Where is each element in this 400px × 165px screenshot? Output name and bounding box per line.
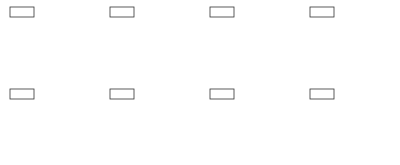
time-label-box: t = 3 4.1 3.5 3.6 2.1 0.2 0 6.9 5.4 <box>310 7 334 17</box>
time-label-box: t = 4 4.1 3.5 3.6 2.1 0.2 0 7 5.8 <box>10 89 34 99</box>
time-label-box: t = 8 4.1 3.5 3.6 2.1 0.2 0 7.6 6.4 <box>310 89 334 99</box>
graph-panel-2: t = 2 4.1 3.5 3.6 2.1 0.2 0 6.6 5.4 <box>210 7 234 17</box>
time-label-box: t = 5 4.1 3.5 3.6 2.1 0.2 0 7.3 5.8 <box>110 89 134 99</box>
time-label-box: t = 6 4.1 3.5 3.6 2.1 0.2 0 7.4 6.2 <box>210 89 234 99</box>
graph-panel-5: t = 5 4.1 3.5 3.6 2.1 0.2 0 7.3 5.8 <box>110 89 134 99</box>
graph-panel-4: t = 4 4.1 3.5 3.6 2.1 0.2 0 7 5.8 <box>10 89 34 99</box>
graph-panel-0: t = 0 4.1 3.5 3.6 2.1 0.2 0 6.5 5 <box>10 7 34 17</box>
time-label-box: t = 0 4.1 3.5 3.6 2.1 0.2 0 6.5 5 <box>10 7 34 17</box>
time-label-box: t = 1 4.1 3.5 3.6 2.1 0.2 0 6.5 5 <box>110 7 134 17</box>
graph-panel-7: t = 8 4.1 3.5 3.6 2.1 0.2 0 7.6 6.4 <box>310 89 334 99</box>
graph-panel-3: t = 3 4.1 3.5 3.6 2.1 0.2 0 6.9 5.4 <box>310 7 334 17</box>
time-label-box: t = 2 4.1 3.5 3.6 2.1 0.2 0 6.6 5.4 <box>210 7 234 17</box>
graph-panel-1: t = 1 4.1 3.5 3.6 2.1 0.2 0 6.5 5 <box>110 7 134 17</box>
graph-panel-6: t = 6 4.1 3.5 3.6 2.1 0.2 0 7.4 6.2 <box>210 89 234 99</box>
graph-panels-figure: t = 0 4.1 3.5 3.6 2.1 0.2 0 6.5 5 <box>0 0 400 165</box>
